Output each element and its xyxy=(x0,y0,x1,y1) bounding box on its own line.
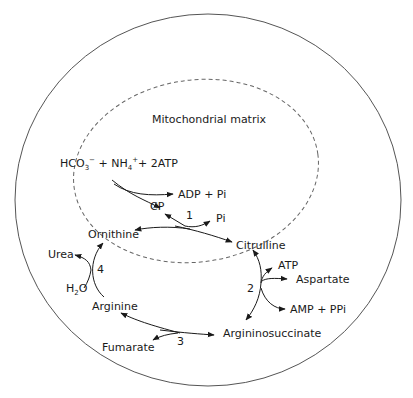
arrow-to-citrulline-r2 xyxy=(253,250,261,283)
arrow-amp-ppi xyxy=(261,288,285,309)
arrow-to-fumarate xyxy=(153,333,178,340)
mitochondrial-membrane xyxy=(62,64,331,278)
node-aspartate: Aspartate xyxy=(296,274,350,285)
node-adp-pi: ADP + Pi xyxy=(178,189,226,200)
node-cp: CP xyxy=(150,201,164,212)
reaction-number-3: 3 xyxy=(177,336,184,347)
arrow-to-adp-pi xyxy=(114,184,173,195)
node-urea: Urea xyxy=(48,249,74,260)
node-amp-ppi: AMP + PPi xyxy=(290,304,346,315)
reaction-number-4: 4 xyxy=(97,264,104,275)
compartment-label: Mitochondrial matrix xyxy=(152,114,266,125)
node-water: H2O xyxy=(66,283,87,294)
node-argininosuccinate: Argininosuccinate xyxy=(223,328,321,339)
reaction-number-2: 2 xyxy=(247,283,254,294)
hco3-subscript: 3 xyxy=(85,164,89,172)
arrow-to-urea xyxy=(75,255,91,270)
node-arginine: Arginine xyxy=(92,301,138,312)
water-o: O xyxy=(79,282,88,295)
arrow-cp-in xyxy=(165,214,185,226)
node-fumarate: Fumarate xyxy=(102,342,155,353)
atp-text: + 2ATP xyxy=(138,157,178,170)
nh4-text: + NH xyxy=(95,157,128,170)
node-citrulline: Citrulline xyxy=(236,240,285,251)
node-pi: Pi xyxy=(216,213,225,224)
arrow-aspartate xyxy=(262,278,287,281)
nh4-subscript: 4 xyxy=(128,164,132,172)
arrow-to-arginine-r3 xyxy=(121,313,180,333)
hco3-text: HCO xyxy=(60,157,85,170)
reaction-number-1: 1 xyxy=(186,210,193,221)
node-ornithine: Ornithine xyxy=(88,229,139,240)
substrates-label: HCO3− + NH4++ 2ATP xyxy=(60,158,178,169)
node-atp: ATP xyxy=(278,260,298,271)
